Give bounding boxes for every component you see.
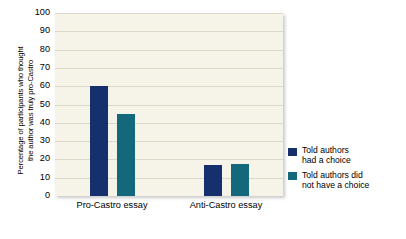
x-tick-label: Pro-Castro essay [77, 200, 148, 211]
y-tick-70: 70 [26, 63, 50, 72]
gridline [55, 68, 283, 69]
y-tick-60: 60 [26, 82, 50, 91]
bar [117, 114, 135, 196]
plot-area [55, 13, 283, 196]
y-tick-0: 0 [26, 191, 50, 200]
y-tick-80: 80 [26, 45, 50, 54]
bar [90, 86, 108, 196]
y-tick-10: 10 [26, 173, 50, 182]
y-tick-20: 20 [26, 155, 50, 164]
bar [204, 165, 222, 196]
legend-item-label: Told authors had a choice [302, 145, 406, 166]
y-tick-90: 90 [26, 27, 50, 36]
x-axis-tick-labels: Pro-Castro essayAnti-Castro essay [55, 200, 283, 216]
y-tick-40: 40 [26, 118, 50, 127]
legend-swatch-icon [288, 172, 297, 180]
y-tick-30: 30 [26, 136, 50, 145]
legend-item-label: Told authors did not have a choice [302, 170, 406, 191]
chart-legend: Told authors had a choiceTold authors di… [288, 145, 406, 195]
x-tick-label: Anti-Castro essay [190, 200, 263, 211]
y-axis-title-line-1: Percentage of participants who thought [16, 11, 26, 209]
legend-item: Told authors did not have a choice [288, 170, 406, 191]
y-tick-50: 50 [26, 100, 50, 109]
y-tick-100: 100 [26, 8, 50, 17]
legend-swatch-icon [288, 148, 297, 156]
bar-chart: Percentage of participants who thought t… [0, 0, 406, 239]
bar [231, 164, 249, 196]
gridline [55, 50, 283, 51]
gridline [55, 31, 283, 32]
gridline [55, 13, 283, 14]
legend-item: Told authors had a choice [288, 145, 406, 166]
y-axis-tick-labels: 0102030405060708090100 [26, 13, 50, 196]
